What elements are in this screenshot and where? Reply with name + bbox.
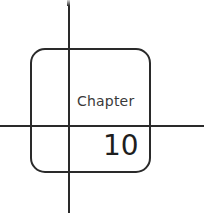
chapter-number: 10 <box>103 130 139 162</box>
chapter-label: Chapter <box>77 93 134 109</box>
vertical-line-tip <box>67 0 70 6</box>
